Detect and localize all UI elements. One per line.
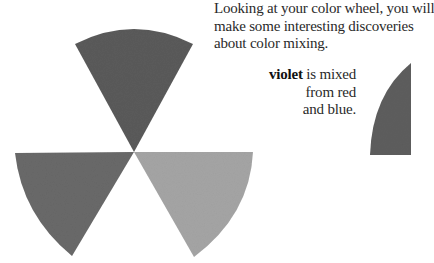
wedge-top <box>75 29 193 152</box>
caption-line: violet is mixed <box>269 66 356 84</box>
intro-line: make some interesting discoveries <box>214 18 414 36</box>
caption-term: violet <box>269 66 303 82</box>
intro-line: about color mixing. <box>214 35 414 53</box>
wedge-bottom-right <box>134 152 253 257</box>
caption-line: from red <box>269 84 356 102</box>
wedge-bottom-left <box>15 152 134 256</box>
violet-caption: violet is mixed from red and blue. <box>269 66 356 119</box>
caption-line: and blue. <box>269 101 356 119</box>
intro-line: Looking at your color wheel, you will <box>214 0 414 18</box>
intro-paragraph: Looking at your color wheel, you will ma… <box>214 0 414 53</box>
caption-text: is mixed <box>303 66 356 82</box>
wedge-violet-partial <box>370 63 411 155</box>
